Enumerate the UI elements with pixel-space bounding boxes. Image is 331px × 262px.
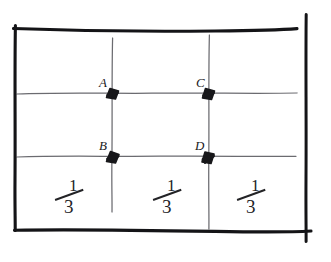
vertical-line-2 [209, 35, 210, 229]
vertical-line-1 [112, 38, 113, 212]
intersection-markers [107, 89, 215, 165]
point-marker-A [107, 89, 119, 100]
horizontal-line-lower [17, 156, 296, 157]
outer-border [14, 15, 312, 242]
horizontal-line-upper [17, 93, 297, 94]
diagram-canvas: A B C D 1 3 1 3 1 3 [0, 0, 331, 262]
diagram-svg [0, 0, 331, 262]
border-top [14, 29, 298, 32]
border-bottom [15, 230, 312, 232]
point-marker-D [202, 152, 214, 164]
point-marker-C [203, 89, 215, 100]
grid-lines [17, 35, 297, 229]
point-marker-B [107, 152, 120, 164]
